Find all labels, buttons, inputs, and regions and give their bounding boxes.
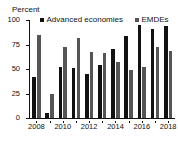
bar-emdes (129, 70, 133, 118)
bar-emdes (77, 38, 81, 118)
y-axis-tick-label: 25 (12, 90, 20, 98)
x-axis-tick-mark (102, 121, 103, 123)
x-axis-line (29, 118, 175, 119)
y-axis-tick-label: 0 (16, 114, 20, 122)
bar-advanced-economies (72, 68, 76, 118)
bar-chart: Percent Advanced economies EMDEs 0255075… (0, 0, 178, 141)
x-axis-tick-label: 2014 (107, 122, 124, 131)
bar-emdes (50, 94, 54, 119)
bar-emdes (116, 62, 120, 118)
plot-area (29, 20, 174, 118)
y-axis-tick-label: 100 (7, 16, 20, 24)
bar-group (45, 20, 53, 118)
bar-group (164, 20, 172, 118)
bar-advanced-economies (85, 74, 89, 118)
bar-group (72, 20, 80, 118)
bar-group (98, 20, 106, 118)
bar-advanced-economies (111, 49, 115, 118)
x-axis-tick-label: 2008 (28, 122, 45, 131)
bar-advanced-economies (45, 113, 49, 118)
bar-emdes (169, 51, 173, 118)
bar-group (85, 20, 93, 118)
x-axis-tick-label: 2018 (160, 122, 177, 131)
bar-emdes (103, 53, 107, 118)
bar-series-container (29, 20, 174, 118)
bar-group (59, 20, 67, 118)
y-axis-tick-labels: 0255075100 (0, 14, 26, 126)
bar-emdes (63, 47, 67, 118)
bar-advanced-economies (138, 25, 142, 118)
bar-group (124, 20, 132, 118)
x-axis-tick-label: 2010 (54, 122, 71, 131)
bar-advanced-economies (124, 36, 128, 118)
y-axis-tick-label: 50 (12, 65, 20, 73)
y-axis-tick-label: 75 (12, 41, 20, 49)
x-axis-tick-mark (129, 121, 130, 123)
bar-emdes (37, 35, 41, 118)
x-axis-tick-label: 2012 (81, 122, 98, 131)
bar-group (138, 20, 146, 118)
bar-emdes (90, 52, 94, 118)
bar-advanced-economies (32, 77, 36, 118)
bar-group (151, 20, 159, 118)
bar-advanced-economies (151, 29, 155, 118)
x-axis-tick-labels: 200820102012201420162018 (29, 121, 175, 135)
bar-emdes (156, 47, 160, 118)
y-axis-title: Percent (12, 5, 40, 14)
bar-group (111, 20, 119, 118)
x-axis-tick-mark (76, 121, 77, 123)
bar-group (32, 20, 40, 118)
bar-emdes (142, 67, 146, 118)
x-axis-tick-mark (155, 121, 156, 123)
x-axis-tick-mark (50, 121, 51, 123)
bar-advanced-economies (164, 26, 168, 118)
bar-advanced-economies (98, 65, 102, 118)
x-axis-tick-label: 2016 (134, 122, 151, 131)
bar-advanced-economies (59, 67, 63, 118)
